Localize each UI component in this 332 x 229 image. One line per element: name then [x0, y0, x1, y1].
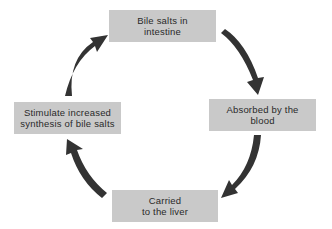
node-absorbed-by-blood: Absorbed by the blood — [209, 99, 316, 131]
node-label-line: to the liver — [142, 206, 188, 217]
node-label-line: synthesis of bile salts — [20, 118, 114, 129]
arrow-bottom-to-left — [66, 139, 107, 198]
arrow-right-to-bottom — [221, 135, 261, 198]
node-carried-to-liver: Carried to the liver — [112, 190, 218, 222]
node-label-line: Carried — [149, 195, 182, 206]
node-label-line: blood — [250, 115, 274, 126]
arrow-top-to-right — [221, 29, 264, 95]
node-label-line: intestine — [144, 26, 181, 37]
node-stimulate-synthesis: Stimulate increased synthesis of bile sa… — [14, 102, 121, 134]
arrow-left-to-top — [65, 35, 108, 96]
node-label-line: Absorbed by the — [226, 104, 298, 115]
node-label-line: Bile salts in — [137, 15, 188, 26]
node-label-line: Stimulate increased — [24, 107, 111, 118]
node-bile-salts-in-intestine: Bile salts in intestine — [109, 10, 216, 42]
